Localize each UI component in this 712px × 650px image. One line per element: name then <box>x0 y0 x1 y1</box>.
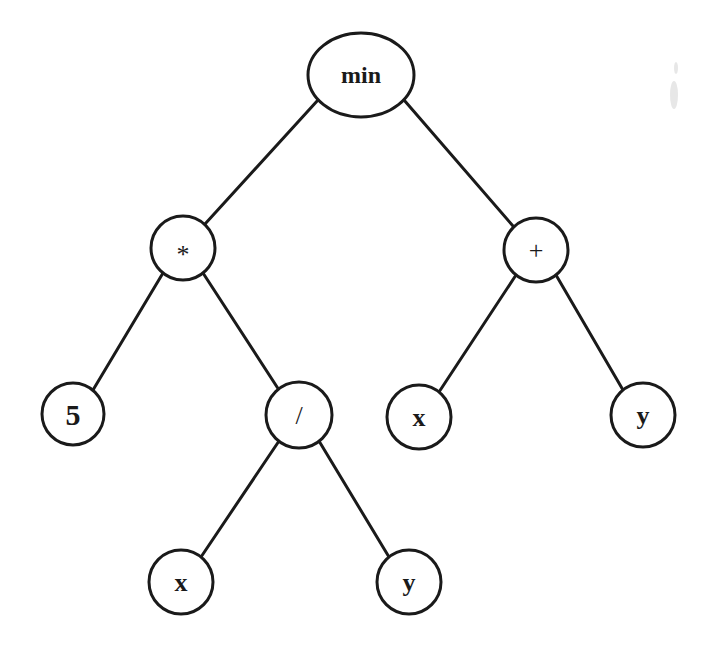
edge-mul-to-five <box>93 273 163 390</box>
tree-node-x2: x <box>149 550 213 614</box>
node-label: / <box>295 401 303 430</box>
node-label: min <box>341 62 381 88</box>
node-label: y <box>403 568 416 597</box>
edge-div-to-y2 <box>319 441 389 557</box>
node-label: x <box>175 568 188 597</box>
tree-nodes: min*+5/xyxy <box>42 33 675 614</box>
node-label: + <box>529 236 544 265</box>
expression-tree-diagram: min*+5/xyxy <box>0 0 712 650</box>
edge-min-to-mul <box>205 100 318 224</box>
scan-artifact <box>670 62 678 109</box>
edge-add-to-x1 <box>439 275 516 392</box>
node-label: x <box>413 403 426 432</box>
node-label: 5 <box>66 398 81 431</box>
tree-node-y2: y <box>377 550 441 614</box>
tree-node-add: + <box>504 218 568 282</box>
tree-node-y1: y <box>611 383 675 447</box>
edge-div-to-x2 <box>201 441 279 557</box>
node-label: y <box>637 401 650 430</box>
tree-node-min: min <box>308 33 414 117</box>
edge-add-to-y1 <box>556 275 623 390</box>
tree-node-mul: * <box>151 216 215 280</box>
tree-node-x1: x <box>387 385 451 449</box>
tree-edges <box>93 100 623 557</box>
edge-mul-to-div <box>203 273 279 390</box>
node-label: * <box>177 240 190 269</box>
edge-min-to-add <box>404 100 513 226</box>
tree-node-div: / <box>266 382 332 448</box>
tree-node-five: 5 <box>42 383 104 445</box>
